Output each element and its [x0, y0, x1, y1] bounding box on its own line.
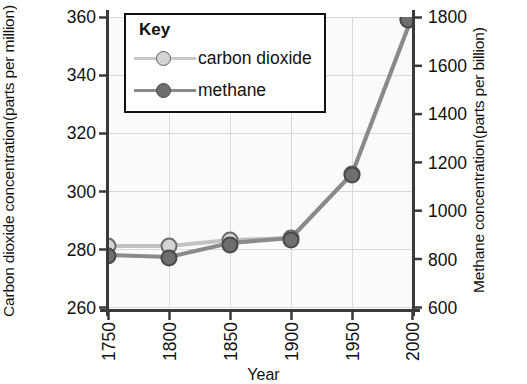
x-tick-label-1950: 1950	[343, 322, 364, 361]
legend-swatch-methane	[134, 79, 196, 101]
legend-marker-carbon-dioxide	[156, 51, 171, 66]
legend-swatch-carbon-dioxide	[134, 47, 196, 69]
legend-item-methane[interactable]: methane	[134, 79, 266, 101]
x-tick-label-1900: 1900	[282, 322, 303, 361]
x-tick-label-1800: 1800	[160, 322, 181, 361]
x-axis-title: Year	[0, 366, 527, 384]
legend-box: Key carbon dioxide methane	[124, 13, 326, 113]
x-tick-label-1850: 1850	[221, 322, 242, 361]
legend-title: Key	[139, 20, 170, 40]
legend-marker-methane	[156, 83, 171, 98]
legend-label-methane: methane	[198, 80, 266, 101]
legend-label-carbon-dioxide: carbon dioxide	[198, 48, 312, 69]
legend-item-carbon-dioxide[interactable]: carbon dioxide	[134, 47, 312, 69]
x-tick-label-1750: 1750	[99, 322, 120, 361]
x-tick-label-2000: 2000	[403, 322, 424, 361]
